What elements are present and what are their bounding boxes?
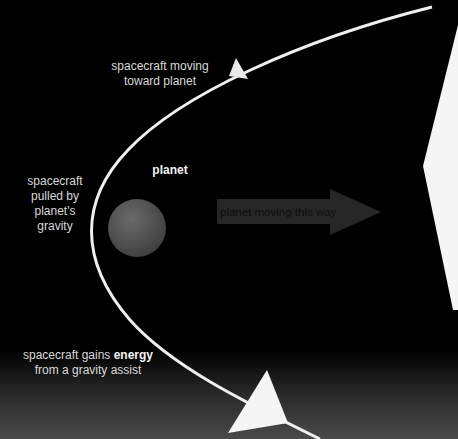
arrowhead-outgoing-icon xyxy=(228,370,288,433)
label-line: spacecraft xyxy=(20,174,90,189)
label-line: pulled by xyxy=(20,189,90,204)
label-motion-arrow: planet moving this way xyxy=(220,205,350,220)
gravity-assist-diagram: spacecraft moving toward planet spacecra… xyxy=(0,0,458,439)
label-line: from a gravity assist xyxy=(18,363,158,378)
label-line: gravity xyxy=(20,219,90,234)
arrowhead-incoming-icon xyxy=(229,58,248,79)
label-approach: spacecraft moving toward planet xyxy=(95,59,225,89)
label-line: spacecraft moving xyxy=(95,59,225,74)
label-planet: planet xyxy=(140,163,200,178)
label-energy-word: energy xyxy=(114,348,153,362)
label-text: spacecraft gains xyxy=(23,348,114,362)
spacecraft-body-shape xyxy=(423,25,458,310)
label-line: toward planet xyxy=(95,74,225,89)
label-gravity-pull: spacecraft pulled by planet's gravity xyxy=(20,174,90,234)
label-energy-gain: spacecraft gains energy from a gravity a… xyxy=(18,348,158,378)
planet-icon xyxy=(108,199,166,257)
label-line: spacecraft gains energy xyxy=(18,348,158,363)
label-line: planet's xyxy=(20,204,90,219)
